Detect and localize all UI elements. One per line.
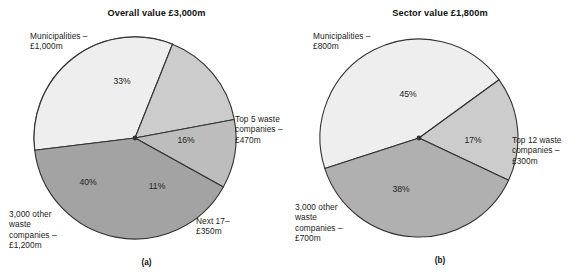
slice-a-label-municipalities: 33%	[113, 76, 131, 86]
callout-b-top12: Top 12 waste companies – £300m	[512, 135, 562, 166]
slice-a-label-next17: 11%	[149, 181, 166, 191]
callout-b-municipalities: Municipalities – £800m	[313, 31, 371, 52]
pie-panel-b: Sector value £1,800m 45%17%38% Municipal…	[293, 0, 587, 278]
slice-b-label-municipalities: 45%	[399, 89, 417, 99]
panel-a-title: Overall value £3,000m	[0, 8, 303, 18]
two-pie-chart-figure: Overall value £3,000m 33%16%11%40% Munic…	[0, 0, 587, 278]
slice-a-label-other: 40%	[79, 177, 97, 187]
callout-a-next17: Next 17– £350m	[196, 216, 230, 237]
caption-a: (a)	[0, 258, 293, 267]
panel-a-pie: 33%16%11%40%	[33, 36, 239, 242]
callout-b-other: 3,000 other waste companies – £700m	[295, 202, 343, 244]
callout-a-municipalities: Municipalities – £1,000m	[30, 31, 88, 52]
panel-b-pie: 45%17%38%	[319, 38, 519, 238]
slice-a-label-top5: 16%	[177, 135, 195, 145]
caption-b: (b)	[293, 256, 587, 265]
slice-b-label-other: 38%	[392, 184, 410, 194]
pie-a-center-dot	[133, 136, 138, 141]
callout-a-other: 3,000 other waste companies – £1,200m	[9, 209, 57, 251]
pie-panel-a: Overall value £3,000m 33%16%11%40% Munic…	[0, 0, 293, 278]
panel-b-title: Sector value £1,800m	[293, 8, 587, 18]
slice-b-label-top12: 17%	[464, 135, 482, 145]
callout-a-top5: Top 5 waste companies – £470m	[235, 114, 283, 145]
pie-b-center-dot	[417, 136, 422, 141]
